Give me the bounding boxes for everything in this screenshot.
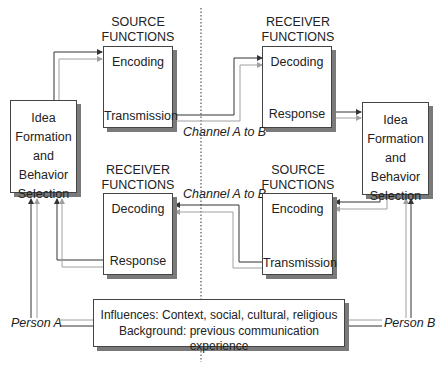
response-label: Response [104,254,172,269]
receiver-functions-b-box: Decoding Response [262,46,332,128]
person-b-label: Person B [384,316,435,330]
header-line: SOURCE [100,15,176,30]
person-a-idea-box: Idea Formation and Behavior Selection [10,100,77,193]
response-label: Response [263,107,331,122]
idea-line: Formation [363,130,428,149]
encoding-label: Encoding [104,55,172,70]
header-line: FUNCTIONS [258,30,338,45]
decoding-label: Decoding [263,55,331,70]
idea-line: Idea [11,109,76,128]
source-functions-b-header: SOURCE FUNCTIONS [258,163,338,193]
idea-line: Selection [11,185,76,204]
receiver-functions-b-header: RECEIVER FUNCTIONS [258,15,338,45]
header-line: FUNCTIONS [258,178,338,193]
source-functions-a-header: SOURCE FUNCTIONS [100,15,176,45]
idea-line: Selection [363,187,428,206]
channel-label-upper: Channel A to B [183,125,266,139]
idea-line: Formation [11,128,76,147]
transmission-label: Transmission [104,109,172,124]
transmission-label: Transmission [263,256,332,271]
header-line: FUNCTIONS [100,30,176,45]
communication-model-diagram: Idea Formation and Behavior Selection SO… [0,0,440,365]
influences-box: Influences: Context, social, cultural, r… [93,299,345,347]
channel-label-lower: Channel A to B [183,187,266,201]
idea-line: Behavior [363,168,428,187]
receiver-functions-a-header: RECEIVER FUNCTIONS [100,163,176,193]
receiver-functions-a-box: Decoding Response [103,193,173,275]
header-line: RECEIVER [100,163,176,178]
influences-line: Influences: Context, social, cultural, r… [94,308,344,323]
decoding-label: Decoding [104,202,172,217]
header-line: RECEIVER [258,15,338,30]
idea-line: Behavior [11,166,76,185]
source-functions-a-box: Encoding Transmission [103,46,173,128]
background-line: Background: previous communication exper… [94,324,344,354]
header-line: FUNCTIONS [100,178,176,193]
encoding-label: Encoding [263,202,332,217]
idea-line: and [363,149,428,168]
source-functions-b-box: Encoding Transmission [262,193,333,275]
header-line: SOURCE [258,163,338,178]
person-a-label: Person A [11,316,62,330]
person-b-idea-box: Idea Formation and Behavior Selection [362,102,429,195]
idea-line: and [11,147,76,166]
idea-line: Idea [363,111,428,130]
